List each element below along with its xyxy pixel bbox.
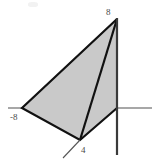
label-apex: 8 [106, 8, 111, 17]
geometry-figure: 8 -8 4 [0, 0, 159, 163]
label-left-intercept: -8 [10, 113, 18, 122]
shaded-region-fill [22, 19, 117, 140]
plot-canvas [0, 0, 159, 163]
label-bottom-vertex: 4 [81, 146, 86, 155]
leader-line-bottom [63, 140, 80, 158]
